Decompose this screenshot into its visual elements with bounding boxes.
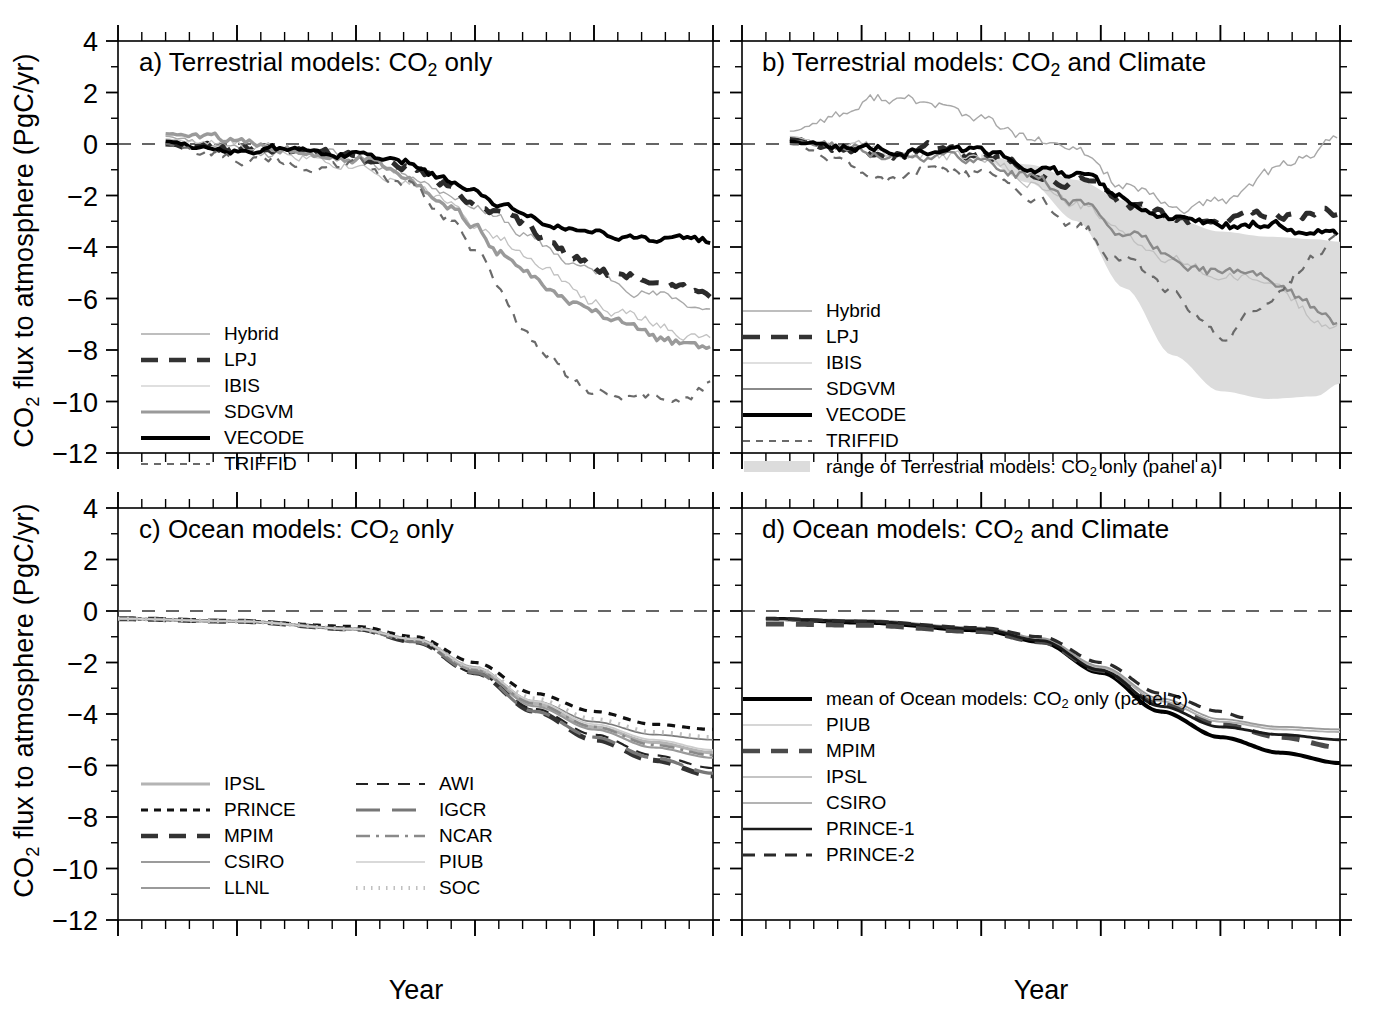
y-tick-label: 4 [83, 494, 98, 524]
legend-label: TRIFFID [826, 431, 899, 450]
legend-line-swatch-icon [742, 433, 816, 447]
panel-c-legend-item: PRINCE [140, 796, 296, 822]
legend-line-swatch-icon [355, 828, 429, 842]
y-tick-label: −12 [52, 906, 98, 936]
panel-c-legend-item: MPIM [140, 822, 296, 848]
legend-label: VECODE [826, 405, 906, 424]
legend-line-swatch-icon [140, 776, 214, 790]
legend-label: NCAR [439, 826, 493, 845]
legend-line-swatch-icon [140, 378, 214, 392]
legend-label: Hybrid [826, 301, 881, 320]
y-tick-label: 0 [83, 130, 98, 160]
y-tick-label: −6 [67, 752, 98, 782]
legend-label: SDGVM [826, 379, 896, 398]
panel-c-legend-col1: IPSLPRINCEMPIMCSIROLLNL [140, 770, 296, 900]
legend-label: LPJ [224, 350, 257, 369]
series-line [166, 139, 711, 340]
panel-d: 185019001950200020502100 d) Ocean models… [720, 470, 1390, 940]
y-tick-label: 2 [83, 546, 98, 576]
series-line [118, 619, 713, 774]
panel-d-legend-item: mean of Ocean models: CO2 only (panel c) [742, 685, 1188, 711]
panel-a-legend-item: IBIS [140, 372, 304, 398]
panel-a-title: a) Terrestrial models: CO2 only [139, 47, 492, 78]
legend-label: PRINCE-1 [826, 819, 915, 838]
legend-label: SOC [439, 878, 480, 897]
panel-a-legend-item: LPJ [140, 346, 304, 372]
y-tick-label: −2 [67, 182, 98, 212]
y-tick-label: −10 [52, 855, 98, 885]
panel-a-legend-item: VECODE [140, 424, 304, 450]
panel-d-legend-item: PIUB [742, 711, 1188, 737]
panel-b: b) Terrestrial models: CO2 and Climate H… [720, 0, 1390, 470]
series-line [166, 141, 711, 243]
legend-line-swatch-icon [140, 352, 214, 366]
panel-a: 420−2−4−6−8−10−12 a) Terrestrial models:… [0, 0, 720, 470]
legend-line-swatch-icon [742, 381, 816, 395]
legend-label: IBIS [826, 353, 862, 372]
y-tick-label: −6 [67, 285, 98, 315]
legend-line-swatch-icon [742, 329, 816, 343]
legend-label: IPSL [826, 767, 867, 786]
panel-b-legend-item: VECODE [742, 401, 1217, 427]
legend-line-swatch-icon [742, 407, 816, 421]
panel-a-legend-item: SDGVM [140, 398, 304, 424]
y-tick-label: 2 [83, 79, 98, 109]
panel-c-legend-col2: AWIIGCRNCARPIUBSOC [355, 770, 493, 900]
legend-line-swatch-icon [140, 854, 214, 868]
legend-line-swatch-icon [742, 743, 816, 757]
panel-b-title: b) Terrestrial models: CO2 and Climate [762, 47, 1206, 78]
panel-b-legend-item: LPJ [742, 323, 1217, 349]
y-tick-label: −2 [67, 649, 98, 679]
panel-c-title: c) Ocean models: CO2 only [139, 514, 454, 545]
y-tick-label: −10 [52, 388, 98, 418]
legend-line-swatch-icon [742, 303, 816, 317]
figure-root: CO2 flux to atmosphere (PgC/yr) CO2 flux… [0, 0, 1390, 1031]
panel-b-legend-item: IBIS [742, 349, 1217, 375]
panel-c-legend-item: SOC [355, 874, 493, 900]
legend-label: PRINCE [224, 800, 296, 819]
panel-c-legend-item: CSIRO [140, 848, 296, 874]
series-group [118, 619, 713, 776]
panel-d-legend: mean of Ocean models: CO2 only (panel c)… [742, 685, 1188, 867]
panel-d-legend-item: PRINCE-2 [742, 841, 1188, 867]
legend-line-swatch-icon [742, 769, 816, 783]
legend-label: IPSL [224, 774, 265, 793]
legend-line-swatch-icon [140, 828, 214, 842]
panel-d-legend-item: IPSL [742, 763, 1188, 789]
legend-line-swatch-icon [140, 802, 214, 816]
x-axis-label-left: Year [316, 975, 516, 1006]
y-tick-label: −4 [67, 700, 98, 730]
y-tick-label: −4 [67, 233, 98, 263]
y-tick-label: 0 [83, 597, 98, 627]
legend-line-swatch-icon [355, 880, 429, 894]
panel-a-legend: HybridLPJIBISSDGVMVECODETRIFFID [140, 320, 304, 476]
x-axis-label-right: Year [941, 975, 1141, 1006]
legend-line-swatch-icon [355, 854, 429, 868]
panel-d-legend-item: PRINCE-1 [742, 815, 1188, 841]
legend-label: Hybrid [224, 324, 279, 343]
series-line [118, 619, 713, 740]
legend-line-swatch-icon [742, 795, 816, 809]
legend-label: SDGVM [224, 402, 294, 421]
panel-b-legend-item: Hybrid [742, 297, 1217, 323]
series-line [166, 136, 711, 309]
series-line [166, 133, 711, 348]
panel-c-legend-item: AWI [355, 770, 493, 796]
y-tick-label: −12 [52, 439, 98, 469]
panel-c-legend-item: NCAR [355, 822, 493, 848]
legend-label: VECODE [224, 428, 304, 447]
legend-line-swatch-icon [140, 430, 214, 444]
legend-label: IGCR [439, 800, 487, 819]
panel-c-legend-item: PIUB [355, 848, 493, 874]
series-line [166, 143, 711, 297]
legend-line-swatch-icon [742, 717, 816, 731]
legend-label: LPJ [826, 327, 859, 346]
panel-d-legend-item: CSIRO [742, 789, 1188, 815]
legend-label: PIUB [439, 852, 483, 871]
legend-line-swatch-icon [140, 456, 214, 470]
panel-c-legend-item: IGCR [355, 796, 493, 822]
legend-label: MPIM [826, 741, 876, 760]
panel-d-legend-item: MPIM [742, 737, 1188, 763]
legend-label: mean of Ocean models: CO2 only (panel c) [826, 689, 1188, 708]
panel-c: 420−2−4−6−8−10−1218501900195020002050210… [0, 470, 720, 940]
